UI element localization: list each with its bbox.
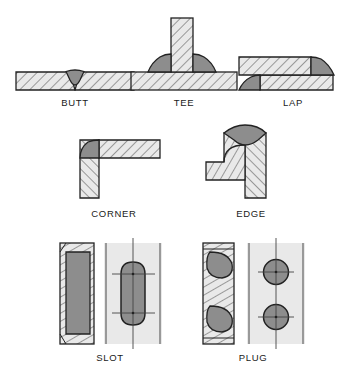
joint-tee <box>131 18 237 90</box>
diagram-canvas <box>0 0 346 374</box>
plug-section-view <box>203 243 234 344</box>
joint-label-tee: TEE <box>174 97 195 108</box>
lap-lower-plate <box>260 75 333 90</box>
lap-weld-bead-lower <box>239 75 260 90</box>
tee-vertical-plate <box>171 18 193 72</box>
tee-weld-bead-right <box>193 54 216 72</box>
slot-plan-view <box>104 238 162 349</box>
butt-plate-left <box>16 72 75 90</box>
joint-corner <box>80 140 160 198</box>
corner-horizontal-plate <box>99 140 160 158</box>
joint-edge <box>206 125 266 198</box>
lap-upper-plate <box>239 57 311 75</box>
joint-label-slot: SLOT <box>96 352 124 363</box>
welding-joints-figure: BUTT TEE LAP CORNER EDGE SLOT PLUG <box>0 0 346 374</box>
joint-lap <box>239 57 334 90</box>
joint-label-corner: CORNER <box>91 208 136 219</box>
joint-label-plug: PLUG <box>239 352 268 363</box>
butt-plate-right <box>75 72 134 90</box>
joint-butt <box>16 70 134 90</box>
slot-section-view <box>60 243 94 344</box>
lap-weld-bead-upper <box>311 57 334 75</box>
tee-base-plate <box>131 72 237 90</box>
tee-weld-bead-left <box>148 54 171 72</box>
plug-plan-view <box>247 238 305 349</box>
joint-label-edge: EDGE <box>236 208 266 219</box>
joint-plug <box>203 238 305 349</box>
joint-label-butt: BUTT <box>61 97 89 108</box>
joint-label-lap: LAP <box>283 97 303 108</box>
joint-slot <box>60 238 162 349</box>
